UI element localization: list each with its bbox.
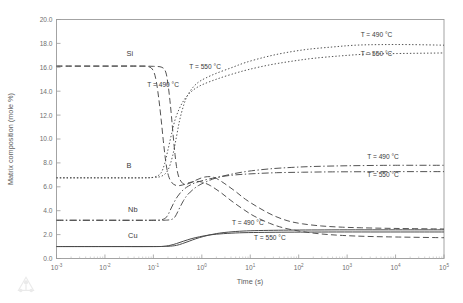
- x-tick-label: 105: [439, 263, 449, 271]
- x-axis-ticks: 10-310-210-1100101102103104105: [51, 255, 450, 271]
- curve-cu-550: [57, 232, 445, 247]
- chart-figure: 10-310-210-1100101102103104105 0.02.04.0…: [0, 0, 463, 303]
- element-label-si: Si: [127, 49, 134, 58]
- y-tick-label: 16.0: [40, 64, 53, 71]
- triangular-logo: [18, 277, 33, 292]
- annotation-6: T = 490 °C: [232, 219, 264, 226]
- x-axis-title: Time (s): [237, 277, 263, 286]
- y-axis-title: Matrix composition (mole %): [6, 93, 15, 185]
- y-tick-label: 20.0: [40, 16, 53, 23]
- annotation-1: T = 490 °C: [147, 81, 179, 88]
- annotation-5: T = 550 °C: [367, 171, 399, 178]
- element-labels: SiBNbCu: [127, 49, 138, 240]
- x-tick-label: 104: [391, 263, 401, 271]
- x-tick-label: 100: [197, 263, 207, 271]
- data-curves: [57, 45, 445, 247]
- y-tick-label: 6.0: [43, 183, 52, 190]
- element-label-cu: Cu: [128, 231, 137, 240]
- curve-nb-550: [57, 172, 445, 221]
- annotation-4: T = 490 °C: [367, 153, 399, 160]
- y-tick-label: 10.0: [40, 135, 53, 142]
- x-tick-label: 103: [342, 263, 352, 271]
- annotation-3: T = 550 °C: [361, 50, 393, 57]
- annotation-0: T = 550 °C: [189, 63, 221, 70]
- x-tick-label: 10-2: [99, 263, 111, 271]
- x-tick-label: 102: [294, 263, 304, 271]
- y-tick-label: 18.0: [40, 40, 53, 47]
- y-tick-label: 14.0: [40, 88, 53, 95]
- temperature-annotations: T = 550 °CT = 490 °CT = 490 °CT = 550 °C…: [147, 31, 399, 241]
- element-label-nb: Nb: [128, 205, 137, 214]
- x-tick-label: 10-1: [148, 263, 160, 271]
- curve-si-490: [57, 66, 445, 229]
- y-axis-ticks: 0.02.04.06.08.010.012.014.016.018.020.0: [40, 16, 61, 262]
- element-label-b: B: [127, 161, 132, 170]
- y-tick-label: 4.0: [43, 207, 52, 214]
- y-tick-label: 8.0: [43, 159, 52, 166]
- y-tick-label: 0.0: [43, 255, 52, 262]
- annotation-2: T = 490 °C: [361, 31, 393, 38]
- annotation-7: T = 550 °C: [254, 234, 286, 241]
- x-tick-label: 10-3: [51, 263, 63, 271]
- y-tick-label: 2.0: [43, 231, 52, 238]
- y-tick-label: 12.0: [40, 112, 53, 119]
- x-tick-label: 101: [245, 263, 255, 271]
